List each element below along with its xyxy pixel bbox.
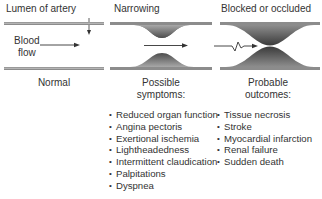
probable-outcomes-line2: outcomes: [214, 89, 322, 101]
blocked-flow-arrow-icon [214, 42, 258, 51]
blocked-title: Blocked or occluded [221, 3, 311, 14]
possible-symptoms-heading: Possible symptoms: [108, 77, 214, 101]
probable-outcomes-heading: Probable outcomes: [214, 77, 322, 101]
blocked-artery-diagram [214, 18, 322, 74]
list-item: Angina pectoris [109, 121, 218, 133]
list-item: Lightheadedness [109, 144, 218, 156]
symptoms-list: Reduced organ function Angina pectoris E… [109, 109, 218, 192]
normal-caption: Normal [0, 77, 108, 89]
narrowing-title: Narrowing [114, 3, 160, 14]
list-item: Sudden death [217, 156, 312, 168]
plaque-bottom [130, 53, 194, 67]
panel-normal: Lumen of artery Blood flow Normal [0, 0, 108, 199]
lumen-pointer-icon [74, 18, 91, 35]
possible-symptoms-line2: symptoms: [108, 89, 214, 101]
probable-outcomes-line1: Probable [214, 77, 322, 89]
panel-blocked: Blocked or occluded Probable outcomes: [214, 0, 322, 199]
list-item: Renal failure [217, 144, 312, 156]
blood-flow-label-line1: Blood [14, 35, 40, 47]
blood-flow-arrow-icon [40, 43, 80, 47]
occlusion-top [220, 22, 320, 46]
list-item: Exertional ischemia [109, 133, 218, 145]
lumen-of-artery-label: Lumen of artery [6, 3, 76, 14]
list-item: Myocardial infarction [217, 133, 312, 145]
list-item: Palpitations [109, 168, 218, 180]
list-item: Stroke [217, 121, 312, 133]
possible-symptoms-line1: Possible [108, 77, 214, 89]
list-item: Dyspnea [109, 180, 218, 192]
narrowing-artery-diagram [108, 18, 214, 74]
list-item: Intermittent claudication [109, 156, 218, 168]
panel-narrowing: Narrowing Possible symptoms: Red [108, 0, 214, 199]
outcomes-list: Tissue necrosis Stroke Myocardial infarc… [217, 109, 312, 168]
list-item: Tissue necrosis [217, 109, 312, 121]
list-item: Reduced organ function [109, 109, 218, 121]
blood-flow-label-line2: flow [14, 47, 40, 59]
blood-flow-label: Blood flow [14, 35, 40, 59]
narrowed-flow-arrow-icon [144, 43, 188, 47]
